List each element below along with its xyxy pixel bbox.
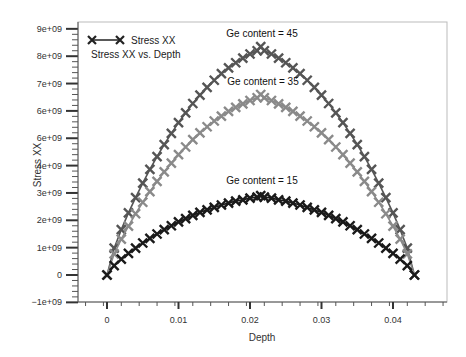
x-tick-label: 0.03 bbox=[313, 315, 331, 325]
annotation-ge35: Ge content = 35 bbox=[227, 76, 299, 87]
y-tick-label: 7e+09 bbox=[37, 79, 62, 89]
y-tick-label: 3e+09 bbox=[37, 188, 62, 198]
y-tick-label: −1e+09 bbox=[31, 297, 62, 307]
stress-depth-chart: 9e+098e+097e+096e+096e+094e+093e+092e+09… bbox=[0, 0, 466, 357]
y-tick-label: 2e+09 bbox=[37, 215, 62, 225]
x-axis: 00.010.020.030.04 bbox=[78, 302, 447, 325]
annotation-ge15: Ge content = 15 bbox=[226, 175, 298, 186]
legend-label: Stress XX bbox=[131, 35, 176, 46]
y-tick-label: 6e+09 bbox=[37, 106, 62, 116]
x-tick-label: 0.04 bbox=[384, 315, 402, 325]
x-tick-label: 0.01 bbox=[170, 315, 188, 325]
y-tick-label: 0 bbox=[57, 270, 62, 280]
y-tick-label: 8e+09 bbox=[37, 51, 62, 61]
y-tick-label: 6e+09 bbox=[37, 133, 62, 143]
x-tick-label: 0.02 bbox=[241, 315, 259, 325]
annotation-ge45: Ge content = 45 bbox=[226, 28, 298, 39]
x-tick-label: 0 bbox=[104, 315, 109, 325]
legend-subtitle: Stress XX vs. Depth bbox=[91, 49, 180, 60]
x-axis-title: Depth bbox=[249, 332, 276, 343]
y-tick-label: 9e+09 bbox=[37, 24, 62, 34]
y-axis-title: Stress XX bbox=[32, 142, 43, 187]
plot-frame bbox=[78, 22, 447, 302]
y-tick-label: 1e+09 bbox=[37, 243, 62, 253]
